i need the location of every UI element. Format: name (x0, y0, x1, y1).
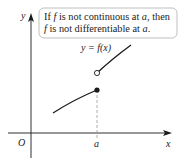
x-axis-label: x (165, 138, 171, 149)
filled-point (94, 87, 99, 92)
callout-line-1: If f is not continuous at a, then (44, 11, 170, 22)
y-axis-label: y (20, 10, 26, 21)
open-point (94, 70, 99, 75)
origin-label: O (18, 137, 25, 148)
a-tick-label: a (94, 138, 99, 149)
lower-curve (53, 90, 97, 113)
callout-line-2: f is not differentiable at a. (44, 23, 150, 34)
discontinuity-diagram: If f is not continuous at a, then f is n… (0, 0, 187, 162)
function-label: y = f(x) (80, 42, 112, 54)
